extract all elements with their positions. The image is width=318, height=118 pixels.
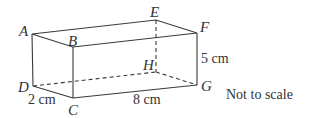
edge-top-face	[32, 20, 197, 47]
cuboid-diagram: A B E F D C H G 2 cm 8 cm 5 cm Not to sc…	[0, 0, 318, 118]
hidden-edge-DH	[33, 72, 156, 86]
hidden-edge-HG	[156, 72, 197, 85]
vertex-label-a: A	[18, 23, 29, 39]
dimension-length-label: 8 cm	[133, 92, 161, 107]
cuboid-figure: A B E F D C H G 2 cm 8 cm 5 cm Not to sc…	[0, 0, 318, 118]
not-to-scale-note: Not to scale	[226, 87, 293, 102]
dimension-width-label: 2 cm	[28, 92, 56, 107]
edge-AD	[32, 34, 33, 86]
vertex-label-h: H	[142, 57, 155, 73]
vertex-label-g: G	[201, 78, 212, 94]
dimension-height-label: 5 cm	[201, 51, 229, 66]
vertex-label-b: B	[68, 33, 77, 49]
vertex-label-e: E	[149, 4, 159, 20]
vertex-label-c: C	[68, 102, 79, 118]
vertex-label-f: F	[199, 19, 210, 35]
